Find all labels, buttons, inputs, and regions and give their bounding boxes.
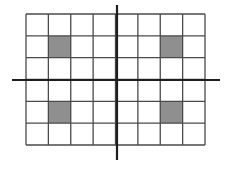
shaded-cell — [160, 101, 182, 123]
shaded-cell — [160, 36, 182, 58]
grid-canvas — [0, 0, 228, 169]
axes — [12, 5, 220, 160]
shaded-cell — [48, 36, 70, 58]
coordinate-grid-diagram — [0, 0, 228, 169]
shaded-cell — [48, 101, 70, 123]
